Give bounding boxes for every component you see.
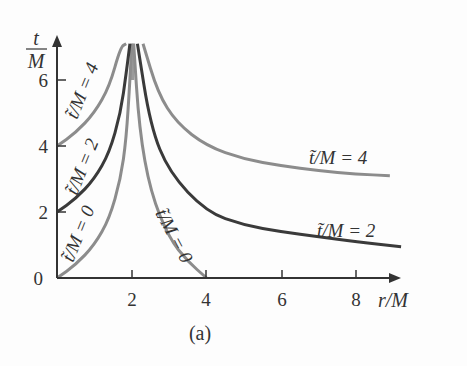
x-axis-label: r/M <box>378 289 409 311</box>
y-axis-label-numerator: t <box>33 27 39 49</box>
curve-label-left-4: t̃/M = 4 <box>61 59 102 121</box>
x-tick-label: 2 <box>127 289 137 310</box>
x-ticks <box>132 270 356 278</box>
x-tick-label: 8 <box>351 289 361 310</box>
curve-label-right-0: t̃/M = 0 <box>151 205 197 267</box>
figure-caption: (a) <box>189 322 211 345</box>
x-tick-label: 4 <box>201 289 211 310</box>
y-tick-label: 4 <box>39 136 49 157</box>
curve-label-right-4: t̃/M = 4 <box>309 147 368 168</box>
y-tick-label: 2 <box>39 202 49 223</box>
x-tick-label: 6 <box>277 289 287 310</box>
y-tick-label: 0 <box>34 268 44 289</box>
curve-label-left-2: t̃/M = 2 <box>61 135 102 197</box>
y-tick-label: 6 <box>39 70 49 91</box>
y-axis-label-denominator: M <box>27 50 46 72</box>
y-ticks <box>57 80 66 212</box>
curve-label-right-2: t̃/M = 2 <box>317 220 376 241</box>
figure: 2 4 6 8 0 2 4 6 t M r/M t̃/M = 4 t̃/M = … <box>0 0 467 366</box>
x-axis-arrow-icon <box>389 273 401 283</box>
y-axis-arrow-icon <box>52 35 62 47</box>
chart-canvas: 2 4 6 8 0 2 4 6 t M r/M t̃/M = 4 t̃/M = … <box>0 0 467 366</box>
